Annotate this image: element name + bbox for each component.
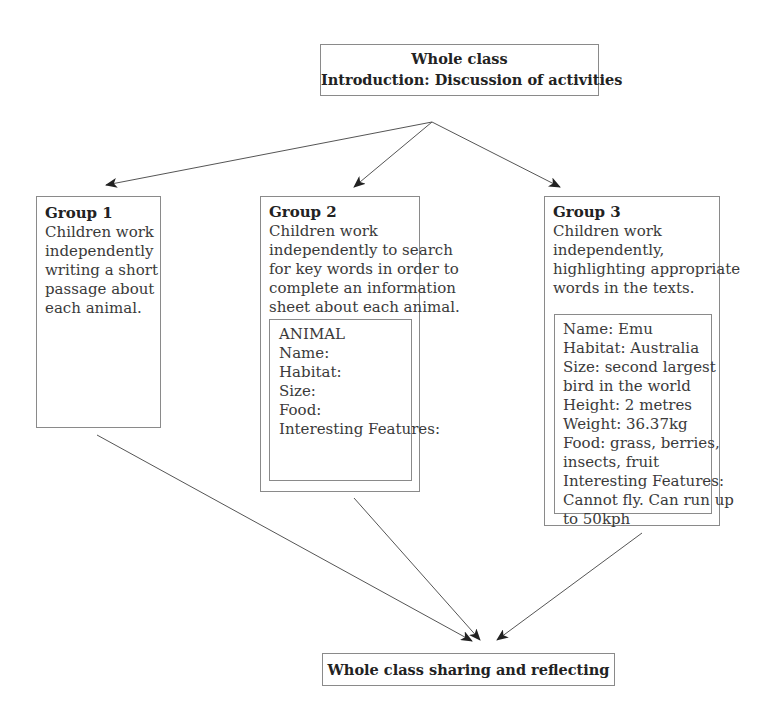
arrow-top-to-group3 xyxy=(432,122,560,187)
group-2-text: sheet about each animal. xyxy=(269,298,419,317)
emu-fact: Food: grass, berries, xyxy=(563,434,711,453)
emu-fact: Cannot fly. Can run up xyxy=(563,491,711,510)
arrow-group3-to-bottom xyxy=(497,533,642,640)
group-1-text: each animal. xyxy=(45,299,160,318)
group-3-text: words in the texts. xyxy=(553,279,719,298)
group-2-text: Children work xyxy=(269,222,419,241)
emu-fact: Interesting Features: xyxy=(563,472,711,491)
emu-fact: insects, fruit xyxy=(563,453,711,472)
animal-info-sheet-template: ANIMAL Name: Habitat: Size: Food: Intere… xyxy=(269,319,412,481)
group-1-text: writing a short xyxy=(45,261,160,280)
emu-fact: Weight: 36.37kg xyxy=(563,415,711,434)
emu-fact: Size: second largest xyxy=(563,358,711,377)
sheet-field: Interesting Features: xyxy=(279,420,411,439)
group-1-text: independently xyxy=(45,242,160,261)
sheet-field: Size: xyxy=(279,382,411,401)
group-1-box: Group 1 Children work independently writ… xyxy=(36,196,161,428)
emu-fact: Habitat: Australia xyxy=(563,339,711,358)
group-3-box: Group 3 Children work independently, hig… xyxy=(544,196,720,526)
whole-class-sharing-box: Whole class sharing and reflecting xyxy=(322,653,615,686)
group-1-title: Group 1 xyxy=(45,204,160,223)
sheet-field: ANIMAL xyxy=(279,325,411,344)
group-2-text: for key words in order to xyxy=(269,260,419,279)
group-2-text: complete an information xyxy=(269,279,419,298)
emu-fact: Name: Emu xyxy=(563,320,711,339)
sheet-field: Food: xyxy=(279,401,411,420)
sheet-field: Name: xyxy=(279,344,411,363)
emu-info-sheet: Name: Emu Habitat: Australia Size: secon… xyxy=(554,314,712,514)
group-3-text: highlighting appropriate xyxy=(553,260,719,279)
bottom-label: Whole class sharing and reflecting xyxy=(328,661,610,678)
arrow-top-to-group1 xyxy=(106,122,432,185)
whole-class-intro-box: Whole class Introduction: Discussion of … xyxy=(320,44,599,96)
emu-fact: Height: 2 metres xyxy=(563,396,711,415)
arrow-top-to-group2 xyxy=(354,122,432,187)
group-3-text: independently, xyxy=(553,241,719,260)
group-1-text: passage about xyxy=(45,280,160,299)
group-1-text: Children work xyxy=(45,223,160,242)
emu-fact: bird in the world xyxy=(563,377,711,396)
emu-fact: to 50kph xyxy=(563,510,711,529)
group-2-text: independently to search xyxy=(269,241,419,260)
arrow-group2-to-bottom xyxy=(354,498,480,640)
group-2-box: Group 2 Children work independently to s… xyxy=(260,196,420,492)
group-3-title: Group 3 xyxy=(553,203,719,222)
sheet-field: Habitat: xyxy=(279,363,411,382)
top-line-2: Introduction: Discussion of activities xyxy=(321,69,598,90)
top-line-1: Whole class xyxy=(321,48,598,69)
group-2-title: Group 2 xyxy=(269,203,419,222)
group-3-text: Children work xyxy=(553,222,719,241)
